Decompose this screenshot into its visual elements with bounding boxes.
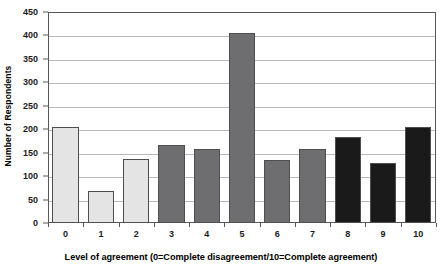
gridline	[49, 154, 435, 155]
x-tick-mark	[330, 223, 331, 227]
y-tick-label: 0	[33, 218, 38, 228]
x-tick-mark	[295, 223, 296, 227]
x-axis-title: Level of agreement (0=Complete disagreem…	[0, 252, 442, 262]
x-tick-label: 8	[345, 229, 350, 239]
chart-page: Number of Respondents 050100150200250300…	[0, 0, 442, 273]
x-tick-label: 2	[134, 229, 139, 239]
x-tick-mark	[119, 223, 120, 227]
x-tick-mark	[260, 223, 261, 227]
gridline	[49, 177, 435, 178]
gridline	[49, 201, 435, 202]
x-tick-mark	[154, 223, 155, 227]
gridline	[49, 130, 435, 131]
x-tick-mark	[83, 223, 84, 227]
gridline	[49, 107, 435, 108]
x-tick-label: 3	[169, 229, 174, 239]
x-tick-label: 4	[204, 229, 209, 239]
x-tick-label: 5	[239, 229, 244, 239]
y-tick-label: 300	[23, 77, 38, 87]
x-tick-label: 7	[310, 229, 315, 239]
gridlines	[49, 13, 435, 222]
y-tick-label: 400	[23, 30, 38, 40]
x-tick-mark	[401, 223, 402, 227]
y-tick-label: 100	[23, 171, 38, 181]
y-tick-label: 150	[23, 148, 38, 158]
gridline	[49, 83, 435, 84]
x-tick-label: 1	[98, 229, 103, 239]
y-tick-label: 200	[23, 124, 38, 134]
x-tick-mark	[48, 223, 49, 227]
x-tick-mark	[224, 223, 225, 227]
y-tick-label: 250	[23, 101, 38, 111]
x-tick-mark	[436, 223, 437, 227]
x-tick-label: 10	[413, 229, 423, 239]
y-axis-ticks: 050100150200250300350400450	[0, 12, 48, 223]
x-tick-mark	[189, 223, 190, 227]
y-tick-label: 350	[23, 54, 38, 64]
y-tick-label: 450	[23, 7, 38, 17]
x-tick-label: 9	[381, 229, 386, 239]
gridline	[49, 36, 435, 37]
plot-area	[48, 12, 436, 223]
x-tick-label: 0	[63, 229, 68, 239]
gridline	[49, 60, 435, 61]
y-tick-label: 50	[28, 195, 38, 205]
x-axis-ticks: 012345678910	[48, 223, 436, 247]
x-tick-mark	[365, 223, 366, 227]
x-tick-label: 6	[275, 229, 280, 239]
